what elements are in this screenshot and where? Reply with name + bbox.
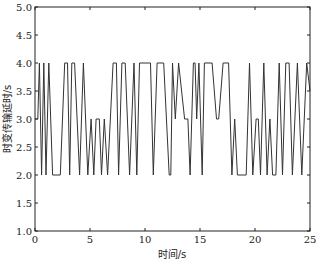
y-tick-label: 2.5	[16, 142, 32, 153]
y-tick-label: 1.5	[16, 198, 32, 209]
delay-series-line	[35, 63, 310, 175]
y-tick-label: 3.5	[16, 86, 32, 97]
x-axis-label: 时间/s	[158, 248, 187, 260]
x-tick-label: 0	[32, 234, 38, 245]
x-tick-label: 15	[194, 234, 207, 245]
x-tick-label: 5	[87, 234, 93, 245]
delay-line-chart: 05101520251.01.52.02.53.03.54.04.55.0 时间…	[0, 0, 317, 265]
plot-frame	[35, 7, 310, 231]
y-tick-label: 4.5	[16, 30, 32, 41]
y-tick-label: 1.0	[16, 226, 32, 237]
x-tick-label: 20	[249, 234, 262, 245]
axis-ticks	[35, 7, 310, 231]
x-tick-label: 10	[139, 234, 152, 245]
y-tick-label: 4.0	[16, 58, 32, 69]
y-axis-label: 时变传输延时/s	[1, 85, 13, 154]
y-tick-label: 5.0	[16, 2, 32, 13]
x-tick-label: 25	[304, 234, 317, 245]
y-tick-label: 3.0	[16, 114, 32, 125]
y-tick-label: 2.0	[16, 170, 32, 181]
